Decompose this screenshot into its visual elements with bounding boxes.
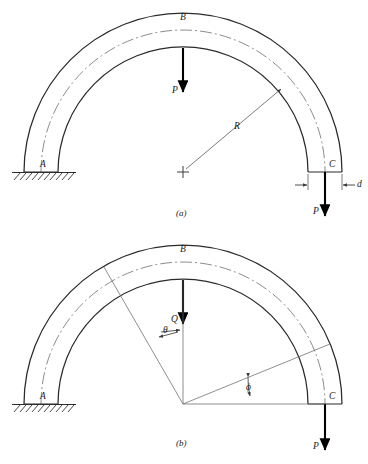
label-support-b: A <box>40 391 46 401</box>
label-free-end-c-b: C <box>329 391 335 401</box>
label-crown-load-p-a: P <box>172 85 178 95</box>
theta-ray-b <box>104 267 183 404</box>
caption-b: (b) <box>176 438 187 448</box>
ground-hatch-a <box>14 173 74 180</box>
label-crown-load-q-b: Q <box>171 314 178 324</box>
panel-a <box>12 13 355 216</box>
label-free-end-c-a: C <box>329 159 335 169</box>
label-angle-phi-b: ϕ <box>246 382 251 392</box>
caption-a: (a) <box>176 208 187 218</box>
label-support-a: A <box>40 159 46 169</box>
arch-diagram-svg <box>0 0 368 464</box>
panel-b <box>12 245 342 450</box>
label-crown-b-b: B <box>180 244 186 254</box>
label-angle-theta-b: θ <box>163 325 168 335</box>
label-end-load-p-a: P <box>313 206 319 216</box>
arch-outer-edge-a <box>24 13 342 172</box>
label-radius-r-a: R <box>234 121 240 131</box>
label-offset-d-a: d <box>357 179 362 189</box>
label-crown-b-a: B <box>180 12 186 22</box>
ground-hatch-b <box>14 405 74 412</box>
figure-container: B A C R P P d (a) B A C Q θ ϕ P (b) <box>0 0 368 464</box>
label-end-load-p-b: P <box>313 441 319 451</box>
